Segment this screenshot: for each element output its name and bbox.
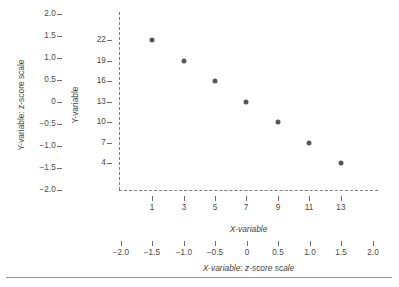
y-variable-tick-label: 22: [97, 35, 106, 44]
y-zscore-tick-label: −2.0: [39, 185, 56, 194]
y-variable-tick-mark: [107, 40, 112, 41]
x-variable-tick-mark: [278, 196, 279, 201]
y-zscore-tick-mark: [57, 124, 62, 125]
y-zscore-tick-mark: [57, 80, 62, 81]
x-zscore-axis-title: X-variable: z-score scale: [119, 263, 378, 273]
x-axis-line: [119, 190, 378, 191]
y-variable-tick-mark: [107, 122, 112, 123]
scatter-plot-figure: Y-variable: z-score scale Y-variable X-v…: [0, 0, 399, 287]
y-axis-line: [119, 12, 120, 190]
x-variable-tick-mark: [309, 196, 310, 201]
x-zscore-tick-mark: [373, 241, 374, 246]
x-variable-tick-mark: [152, 196, 153, 201]
x-variable-tick-mark: [341, 196, 342, 201]
y-variable-tick-mark: [107, 102, 112, 103]
y-zscore-tick-label: 0: [51, 97, 56, 106]
x-zscore-tick-label: 2.0: [353, 248, 393, 257]
x-variable-axis-title: X-variable: [119, 224, 378, 234]
data-point: [339, 161, 344, 166]
x-zscore-axis-title-text: X-variable: z-score scale: [203, 263, 295, 273]
x-zscore-tick-mark: [247, 241, 248, 246]
x-variable-tick-label: 13: [321, 203, 361, 212]
x-variable-tick-mark: [246, 196, 247, 201]
x-variable-axis-title-text: X-variable: [230, 224, 268, 234]
y-variable-tick-mark: [107, 143, 112, 144]
y-zscore-tick-mark: [57, 146, 62, 147]
y-variable-tick-mark: [107, 81, 112, 82]
data-point: [244, 100, 249, 105]
y-variable-tick-label: 16: [97, 76, 106, 85]
x-zscore-tick-mark: [215, 241, 216, 246]
data-point: [150, 38, 155, 43]
y-zscore-tick-mark: [57, 168, 62, 169]
x-zscore-tick-mark: [184, 241, 185, 246]
y-variable-tick-mark: [107, 61, 112, 62]
data-point: [276, 120, 281, 125]
data-point: [307, 141, 312, 146]
y-zscore-tick-mark: [57, 58, 62, 59]
data-point: [213, 79, 218, 84]
y-zscore-tick-mark: [57, 14, 62, 15]
x-zscore-tick-mark: [310, 241, 311, 246]
y-variable-tick-label: 19: [97, 56, 106, 65]
y-zscore-tick-label: −1.5: [39, 163, 56, 172]
y-zscore-tick-label: 2.0: [44, 9, 56, 18]
x-zscore-tick-mark: [152, 241, 153, 246]
y-zscore-axis-title-text: Y-variable: z-score scale: [16, 60, 26, 151]
figure-bottom-rule: [6, 277, 392, 278]
x-variable-tick-mark: [184, 196, 185, 201]
y-variable-axis-title: Y-variable: [70, 74, 80, 136]
x-zscore-tick-mark: [278, 241, 279, 246]
y-zscore-tick-label: −0.5: [39, 119, 56, 128]
y-zscore-tick-mark: [57, 102, 62, 103]
y-zscore-tick-mark: [57, 190, 62, 191]
x-variable-tick-mark: [215, 196, 216, 201]
y-zscore-axis-title: Y-variable: z-score scale: [16, 53, 26, 157]
y-variable-tick-label: 13: [97, 97, 106, 106]
y-variable-tick-label: 10: [97, 117, 106, 126]
y-zscore-tick-label: 0.5: [44, 75, 56, 84]
data-point: [182, 59, 187, 64]
y-variable-tick-mark: [107, 163, 112, 164]
x-zscore-tick-mark: [341, 241, 342, 246]
y-zscore-tick-mark: [57, 36, 62, 37]
y-variable-tick-label: 4: [101, 158, 106, 167]
y-variable-axis-title-text: Y-variable: [70, 87, 80, 124]
y-zscore-tick-label: 1.0: [44, 53, 56, 62]
y-zscore-tick-label: −1.0: [39, 141, 56, 150]
y-variable-tick-label: 7: [101, 138, 106, 147]
x-zscore-tick-mark: [121, 241, 122, 246]
y-zscore-tick-label: 1.5: [44, 31, 56, 40]
